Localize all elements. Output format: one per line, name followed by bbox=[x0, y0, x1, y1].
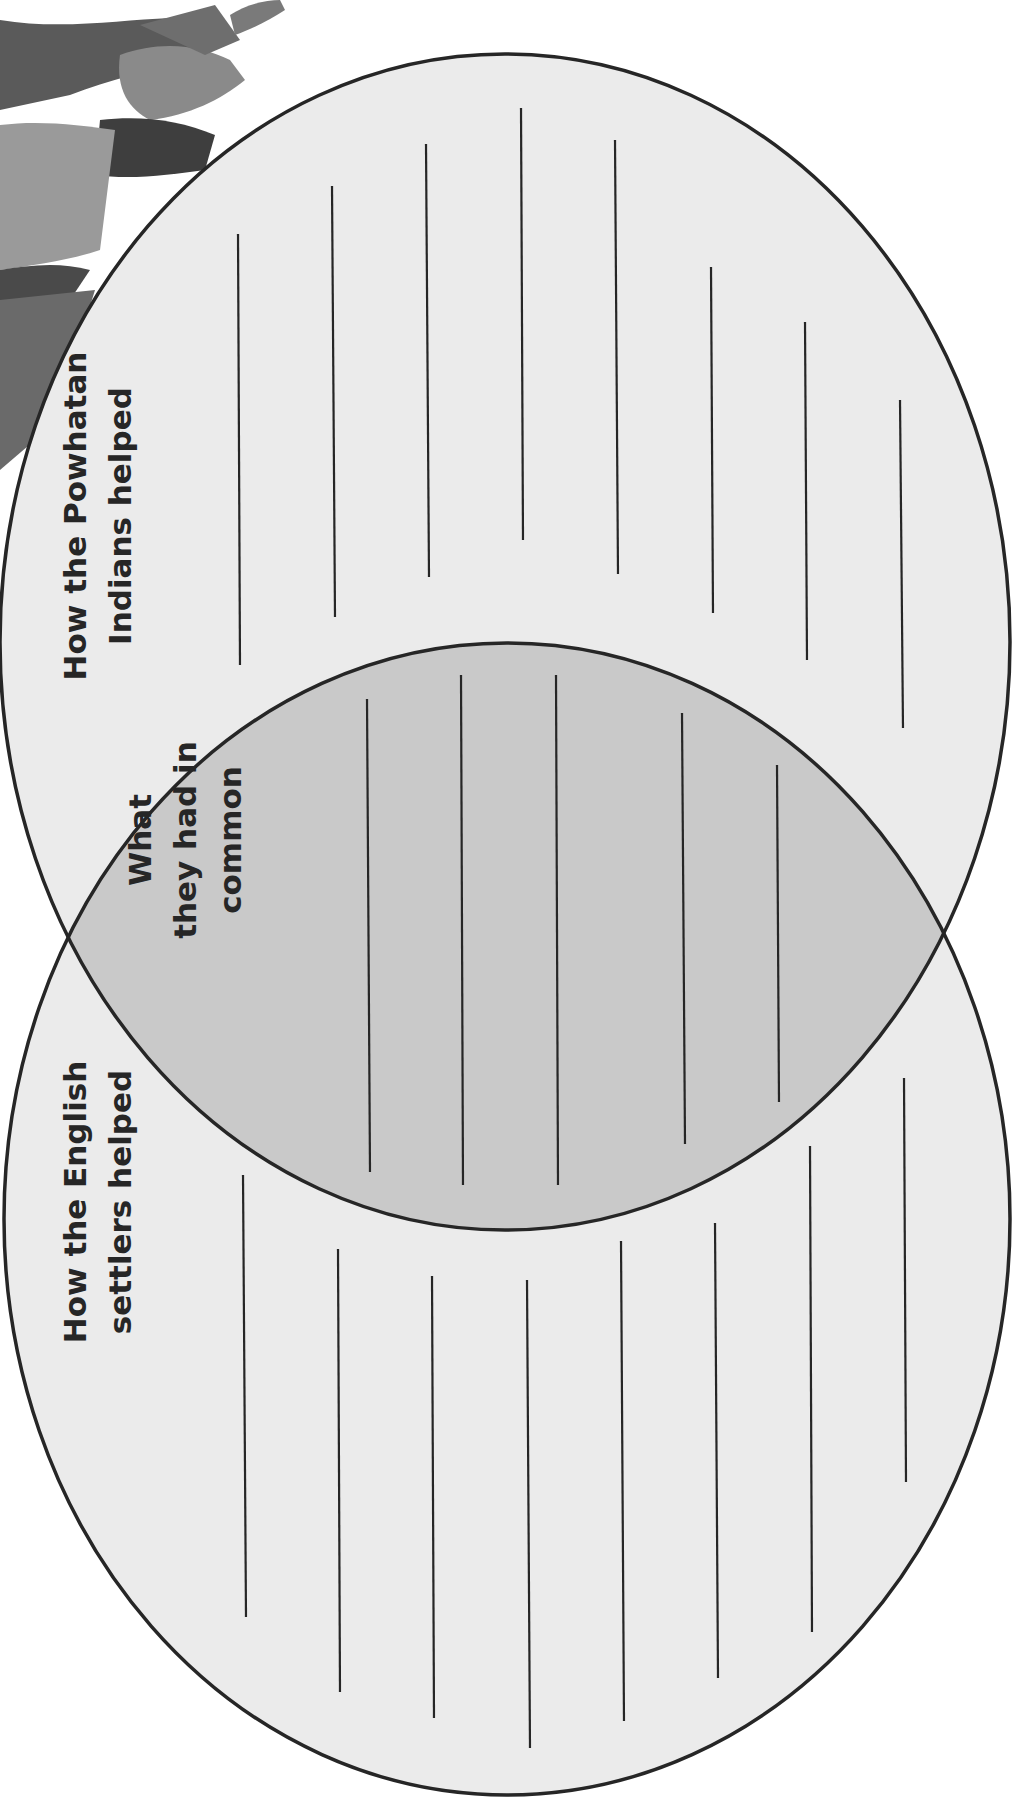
english-set-title: How the English settlers helped bbox=[53, 1061, 143, 1344]
venn-worksheet-page: How the Powhatan Indians helped What the… bbox=[0, 0, 1035, 1810]
title-line: settlers helped bbox=[98, 1061, 143, 1344]
powhatan-set-title: How the Powhatan Indians helped bbox=[53, 352, 143, 681]
title-line: How the Powhatan bbox=[53, 352, 98, 681]
title-line: What bbox=[118, 741, 163, 939]
title-line: common bbox=[208, 741, 253, 939]
title-line: How the English bbox=[53, 1061, 98, 1344]
title-line: they had in bbox=[163, 741, 208, 939]
title-line: Indians helped bbox=[98, 352, 143, 681]
intersection-title: What they had in common bbox=[118, 741, 253, 939]
